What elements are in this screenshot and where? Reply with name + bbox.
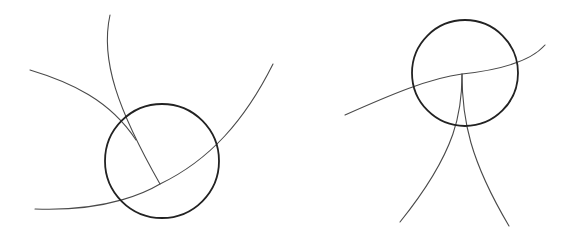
diagram-canvas — [0, 0, 577, 236]
background — [0, 0, 577, 236]
